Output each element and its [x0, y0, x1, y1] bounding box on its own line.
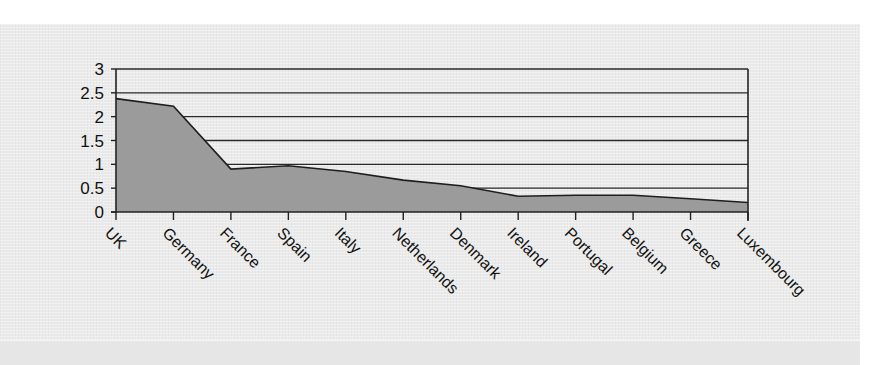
- area-series: [116, 99, 748, 212]
- y-tick-label: 0.5: [80, 179, 104, 198]
- y-tick-label: 2: [95, 108, 104, 127]
- y-tick-label: 0: [95, 203, 104, 222]
- x-tick-label-denmark: Denmark: [447, 224, 506, 283]
- x-axis-tick-labels: UKGermanyFranceSpainItalyNetherlandsDenm…: [102, 224, 809, 299]
- x-tick-label-spain: Spain: [274, 224, 315, 265]
- x-tick-label-luxembourg: Luxembourg: [734, 224, 809, 299]
- x-tick-label-uk: UK: [102, 224, 130, 252]
- y-axis-tick-labels: 00.511.522.53: [80, 60, 104, 222]
- x-tick-label-portugal: Portugal: [562, 224, 616, 278]
- y-tick-label: 1: [95, 155, 104, 174]
- x-tick-label-ireland: Ireland: [504, 224, 551, 271]
- x-tick-label-italy: Italy: [332, 224, 365, 257]
- x-tick-label-france: France: [217, 224, 264, 271]
- x-tick-label-germany: Germany: [159, 224, 218, 283]
- x-tick-label-greece: Greece: [676, 224, 725, 273]
- y-tick-label: 2.5: [80, 84, 104, 103]
- x-tick-label-belgium: Belgium: [619, 224, 672, 277]
- y-tick-label: 1.5: [80, 132, 104, 151]
- y-tick-label: 3: [95, 60, 104, 79]
